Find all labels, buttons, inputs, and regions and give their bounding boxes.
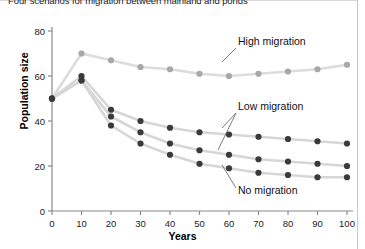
data-point [285, 136, 291, 142]
y-tick-label: 40 [34, 116, 45, 127]
axes [52, 27, 353, 211]
data-point [137, 140, 143, 146]
data-point [167, 152, 173, 158]
annotation-low-migration: Low migration [218, 100, 304, 150]
plot-area: 0204060800102030405060708090100High migr… [0, 0, 365, 249]
x-tick-label: 100 [339, 218, 355, 229]
data-point [196, 129, 202, 135]
y-tick-label: 0 [40, 206, 45, 217]
x-tick-label: 30 [135, 218, 146, 229]
data-point [137, 64, 143, 70]
data-point [226, 73, 232, 79]
data-point [108, 113, 114, 119]
y-axis-ticks: 020406080 [34, 26, 52, 217]
data-point [167, 66, 173, 72]
data-point [285, 158, 291, 164]
x-tick-label: 80 [283, 218, 294, 229]
annotation-label: High migration [238, 35, 306, 47]
x-tick-label: 0 [49, 218, 54, 229]
data-point [108, 57, 114, 63]
x-tick-label: 70 [253, 218, 264, 229]
x-tick-label: 50 [194, 218, 205, 229]
data-point [255, 71, 261, 77]
annotation-label: Low migration [238, 100, 304, 112]
y-tick-label: 60 [34, 71, 45, 82]
data-point [137, 129, 143, 135]
data-point [285, 172, 291, 178]
chart-figure: Four scenarios for migration between mai… [0, 0, 365, 249]
data-point [78, 77, 84, 83]
data-point [255, 170, 261, 176]
data-point [344, 174, 350, 180]
data-point [314, 161, 320, 167]
data-point [226, 152, 232, 158]
data-point [78, 50, 84, 56]
y-tick-label: 20 [34, 161, 45, 172]
data-point [196, 71, 202, 77]
data-point [167, 140, 173, 146]
data-point [255, 156, 261, 162]
y-tick-label: 80 [34, 26, 45, 37]
data-point [314, 174, 320, 180]
data-point [285, 68, 291, 74]
x-tick-label: 40 [165, 218, 176, 229]
series-no-migration [49, 77, 350, 180]
data-point [196, 147, 202, 153]
annotation-label: No migration [238, 184, 298, 196]
x-tick-label: 20 [106, 218, 117, 229]
data-point [196, 161, 202, 167]
data-point [314, 138, 320, 144]
data-point [167, 125, 173, 131]
data-point [108, 122, 114, 128]
data-point [344, 140, 350, 146]
data-point [344, 163, 350, 169]
data-point [226, 165, 232, 171]
data-point [314, 66, 320, 72]
annotation-high-migration: High migration [222, 35, 306, 62]
data-point [49, 95, 55, 101]
data-point [137, 118, 143, 124]
data-point [344, 62, 350, 68]
x-tick-label: 10 [76, 218, 87, 229]
x-tick-label: 60 [224, 218, 235, 229]
data-point [255, 134, 261, 140]
x-tick-label: 90 [312, 218, 323, 229]
series-low-migration-upper [49, 73, 350, 147]
x-axis-ticks: 0102030405060708090100 [49, 211, 355, 229]
